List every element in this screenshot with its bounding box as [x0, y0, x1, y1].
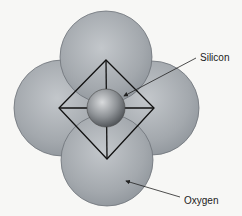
- silicon-atom: [87, 89, 125, 127]
- silicon-label: Silicon: [200, 52, 229, 63]
- oxygen-label: Oxygen: [184, 195, 218, 206]
- silicon-oxygen-tetrahedron-diagram: Silicon Oxygen: [0, 0, 242, 216]
